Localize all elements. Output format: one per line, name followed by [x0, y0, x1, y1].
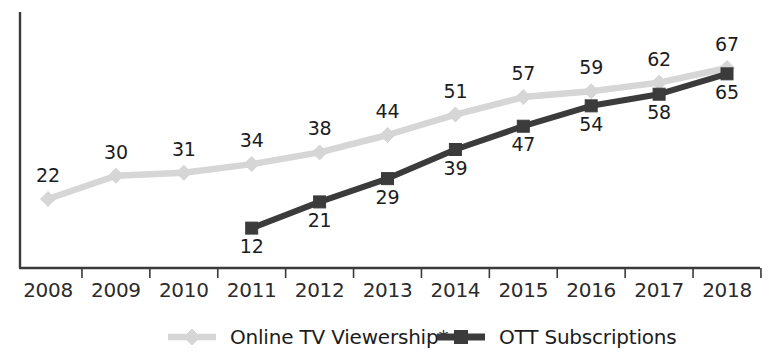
data-value-label: 47 [511, 133, 535, 155]
legend-label: OTT Subscriptions [499, 325, 676, 349]
legend-item-1[interactable]: Online TV Viewership* [168, 325, 448, 349]
data-point-marker-diamond [516, 90, 531, 105]
data-value-label: 12 [240, 235, 264, 257]
legend-marker-square [455, 331, 468, 344]
data-value-label: 29 [376, 186, 400, 208]
data-point-marker-diamond [448, 107, 463, 122]
data-point-marker-square [314, 196, 326, 208]
chart-container: 22303134384451575962671221293947545865 2… [0, 0, 769, 357]
legend-item-2[interactable]: OTT Subscriptions [437, 325, 676, 349]
x-tick-label[interactable]: 2015 [498, 278, 548, 302]
data-point-marker-diamond [312, 145, 327, 160]
x-tick-label[interactable]: 2018 [702, 278, 752, 302]
data-point-marker-square [449, 144, 461, 156]
x-tick-label[interactable]: 2011 [227, 278, 277, 302]
data-point-marker-diamond [176, 165, 191, 180]
data-point-marker-square [585, 100, 597, 112]
x-tick-label[interactable]: 2017 [634, 278, 684, 302]
x-tick-label[interactable]: 2008 [23, 278, 73, 302]
data-value-label: 65 [715, 81, 739, 103]
data-point-marker-diamond [41, 192, 56, 207]
data-value-label: 54 [579, 113, 603, 135]
x-tick-label[interactable]: 2013 [363, 278, 413, 302]
data-value-label: 39 [444, 157, 468, 179]
data-point-marker-square [246, 222, 258, 234]
data-labels-group: 22303134384451575962671221293947545865 [36, 33, 739, 257]
data-value-label: 30 [104, 141, 128, 163]
line-chart-plot: 22303134384451575962671221293947545865 2… [0, 0, 769, 357]
data-point-marker-diamond [584, 84, 599, 99]
data-point-marker-diamond [108, 168, 123, 183]
data-value-label: 22 [36, 164, 60, 186]
x-tick-label[interactable]: 2010 [159, 278, 209, 302]
data-point-marker-square [653, 88, 665, 100]
x-axis-tick-labels: 2008200920102011201220132014201520162017… [23, 278, 752, 302]
data-value-label: 57 [511, 62, 535, 84]
series-group [41, 61, 735, 235]
data-point-marker-square [517, 120, 529, 132]
legend-label: Online TV Viewership* [230, 325, 448, 349]
data-value-label: 38 [308, 117, 332, 139]
x-tick-label[interactable]: 2016 [566, 278, 616, 302]
data-value-label: 34 [240, 129, 264, 151]
legend-marker-diamond [184, 329, 200, 345]
x-tick-label[interactable]: 2014 [431, 278, 481, 302]
chart-legend: Online TV Viewership*OTT Subscriptions [168, 325, 676, 349]
data-value-label: 58 [647, 101, 671, 123]
data-value-label: 44 [376, 100, 400, 122]
data-value-label: 31 [172, 138, 196, 160]
data-value-label: 59 [579, 56, 603, 78]
data-point-marker-square [382, 173, 394, 185]
x-tick-label[interactable]: 2012 [295, 278, 345, 302]
data-value-label: 51 [444, 80, 468, 102]
data-point-marker-square [721, 68, 733, 80]
data-value-label: 62 [647, 48, 671, 70]
x-tick-label[interactable]: 2009 [91, 278, 141, 302]
data-point-marker-diamond [380, 127, 395, 142]
data-value-label: 21 [308, 209, 332, 231]
data-value-label: 67 [715, 33, 739, 55]
data-point-marker-diamond [244, 157, 259, 172]
